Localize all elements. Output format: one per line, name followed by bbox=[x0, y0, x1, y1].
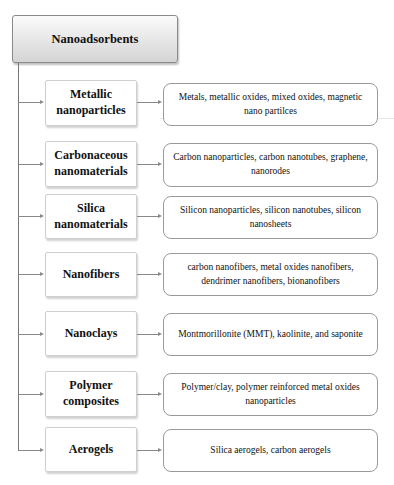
description-text: Carbon nanoparticles, carbon nanotubes, … bbox=[172, 151, 369, 179]
link-connector bbox=[137, 394, 159, 395]
link-connector bbox=[137, 334, 159, 335]
category-box: Carbonaceous nanomaterials bbox=[45, 141, 137, 187]
arrow-icon bbox=[158, 214, 162, 218]
branch-connector bbox=[18, 216, 41, 217]
category-label: Carbonaceous nanomaterials bbox=[46, 148, 136, 179]
link-connector bbox=[137, 216, 159, 217]
description-box: Carbon nanoparticles, carbon nanotubes, … bbox=[163, 143, 378, 187]
category-box: Polymer composites bbox=[45, 371, 137, 417]
arrow-icon bbox=[40, 214, 44, 218]
description-box: Montmorillonite (MMT), kaolinite, and sa… bbox=[163, 313, 378, 356]
arrow-icon bbox=[158, 392, 162, 396]
arrow-icon bbox=[158, 272, 162, 276]
arrow-icon bbox=[40, 100, 44, 104]
arrow-icon bbox=[158, 162, 162, 166]
arrow-icon bbox=[40, 448, 44, 452]
description-text: Montmorillonite (MMT), kaolinite, and sa… bbox=[178, 328, 363, 342]
description-box: carbon nanofibers, metal oxides nanofibe… bbox=[163, 253, 378, 296]
root-node-nanoadsorbents: Nanoadsorbents bbox=[12, 15, 178, 63]
arrow-icon bbox=[40, 162, 44, 166]
arrow-icon bbox=[158, 100, 162, 104]
category-label: Aerogels bbox=[69, 442, 113, 458]
category-box: Nanoclays bbox=[45, 311, 137, 356]
arrow-icon bbox=[40, 332, 44, 336]
category-box: Silica nanomaterials bbox=[45, 194, 137, 239]
branch-connector bbox=[18, 274, 41, 275]
description-box: Metals, metallic oxides, mixed oxides, m… bbox=[163, 83, 378, 126]
category-label: Nanofibers bbox=[63, 267, 120, 283]
arrow-icon bbox=[40, 272, 44, 276]
category-box: Nanofibers bbox=[45, 252, 137, 297]
branch-connector bbox=[18, 394, 41, 395]
root-label: Nanoadsorbents bbox=[52, 32, 139, 47]
category-box: Aerogels bbox=[45, 427, 137, 472]
branch-connector bbox=[18, 334, 41, 335]
arrow-icon bbox=[158, 448, 162, 452]
category-box: Metallic nanoparticles bbox=[45, 80, 137, 126]
category-label: Nanoclays bbox=[65, 326, 118, 342]
description-text: carbon nanofibers, metal oxides nanofibe… bbox=[172, 261, 369, 289]
description-box: Silica aerogels, carbon aerogels bbox=[163, 429, 378, 472]
branch-connector bbox=[18, 450, 41, 451]
category-label: Polymer composites bbox=[46, 378, 136, 409]
category-label: Metallic nanoparticles bbox=[46, 87, 136, 118]
branch-connector bbox=[18, 102, 41, 103]
link-connector bbox=[137, 164, 159, 165]
arrow-icon bbox=[40, 392, 44, 396]
description-box: Polymer/clay, polymer reinforced metal o… bbox=[163, 373, 378, 416]
trunk-connector bbox=[18, 63, 19, 450]
branch-connector bbox=[18, 164, 41, 165]
link-connector bbox=[137, 274, 159, 275]
link-connector bbox=[137, 102, 159, 103]
category-label: Silica nanomaterials bbox=[46, 201, 136, 232]
arrow-icon bbox=[158, 332, 162, 336]
description-text: Silicon nanoparticles, silicon nanotubes… bbox=[172, 204, 369, 232]
link-connector bbox=[137, 450, 159, 451]
description-text: Metals, metallic oxides, mixed oxides, m… bbox=[172, 91, 369, 119]
description-text: Silica aerogels, carbon aerogels bbox=[210, 444, 330, 458]
description-text: Polymer/clay, polymer reinforced metal o… bbox=[172, 381, 369, 409]
description-box: Silicon nanoparticles, silicon nanotubes… bbox=[163, 196, 378, 239]
